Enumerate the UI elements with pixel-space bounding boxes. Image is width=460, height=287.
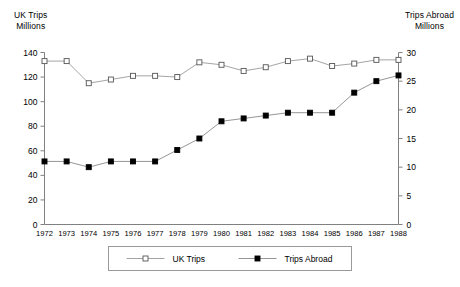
x-axis-tick-label: 1972 — [36, 229, 53, 238]
x-axis-tick-label: 1986 — [346, 229, 363, 238]
x-axis-tick-label: 1975 — [102, 229, 119, 238]
x-axis-tick-label: 1977 — [147, 229, 164, 238]
series-2 — [42, 73, 401, 170]
legend-marker — [255, 256, 260, 261]
series-1 — [42, 56, 401, 86]
data-point-marker — [396, 57, 401, 62]
right-axis-tick-label: 15 — [407, 134, 417, 144]
x-axis-tick-label: 1980 — [213, 229, 230, 238]
data-point-marker — [175, 147, 180, 152]
series-layer — [42, 56, 401, 170]
chart-container: UK Trips Millions Trips Abroad Millions … — [0, 0, 460, 287]
data-point-marker — [108, 77, 113, 82]
left-axis-tick-label: 120 — [23, 72, 37, 82]
data-point-marker — [285, 110, 290, 115]
right-axis-tick-label: 20 — [407, 105, 417, 115]
right-axis-tick-label: 30 — [407, 48, 417, 58]
right-axis-tick-label: 25 — [407, 76, 417, 86]
data-point-marker — [352, 90, 357, 95]
x-axis-tick-label: 1988 — [390, 229, 407, 238]
x-axis-tick-label: 1984 — [302, 229, 319, 238]
data-point-marker — [108, 159, 113, 164]
x-axis-tick-label: 1978 — [169, 229, 186, 238]
data-point-marker — [64, 59, 69, 64]
data-point-marker — [330, 110, 335, 115]
data-point-marker — [241, 116, 246, 121]
x-axis-tick-label: 1976 — [125, 229, 142, 238]
x-axis: 1972197319741975197619771978197919801981… — [36, 225, 407, 239]
left-axis-tick-label: 40 — [28, 170, 38, 180]
data-point-marker — [42, 159, 47, 164]
data-point-marker — [374, 57, 379, 62]
left-axis-tick-label: 140 — [23, 48, 37, 58]
data-point-marker — [197, 60, 202, 65]
data-point-marker — [42, 59, 47, 64]
x-axis-tick-label: 1973 — [58, 229, 75, 238]
data-point-marker — [396, 73, 401, 78]
data-point-marker — [86, 165, 91, 170]
data-point-marker — [131, 73, 136, 78]
chart-legend: UK TripsTrips Abroad — [109, 247, 352, 271]
data-point-marker — [131, 159, 136, 164]
data-point-marker — [153, 73, 158, 78]
data-point-marker — [330, 64, 335, 69]
data-point-marker — [153, 159, 158, 164]
legend-label: UK Trips — [173, 254, 206, 264]
data-point-marker — [64, 159, 69, 164]
data-point-marker — [175, 75, 180, 80]
data-point-marker — [263, 113, 268, 118]
x-axis-tick-label: 1985 — [324, 229, 341, 238]
data-point-marker — [374, 79, 379, 84]
data-point-marker — [352, 61, 357, 66]
data-point-marker — [219, 119, 224, 124]
left-axis-tick-label: 60 — [28, 146, 38, 156]
left-axis-tick-label: 100 — [23, 97, 37, 107]
data-point-marker — [219, 62, 224, 67]
x-axis-tick-label: 1979 — [191, 229, 208, 238]
data-point-marker — [285, 59, 290, 64]
data-point-marker — [241, 68, 246, 73]
left-axis-tick-label: 20 — [28, 195, 38, 205]
x-axis-tick-label: 1974 — [80, 229, 97, 238]
data-point-marker — [308, 110, 313, 115]
x-axis-tick-label: 1987 — [368, 229, 385, 238]
legend-label: Trips Abroad — [285, 254, 333, 264]
left-axis-tick-label: 80 — [28, 121, 38, 131]
right-axis-tick-label: 10 — [407, 162, 417, 172]
legend-marker — [143, 256, 148, 261]
right-axis-tick-label: 5 — [407, 191, 412, 201]
data-point-marker — [308, 56, 313, 61]
data-point-marker — [197, 136, 202, 141]
right-axis-tick-label: 0 — [407, 220, 412, 230]
data-point-marker — [263, 65, 268, 70]
x-axis-tick-label: 1982 — [257, 229, 274, 238]
left-axis: 020406080100120140 — [23, 48, 44, 230]
plot-area: 020406080100120140 051015202530 19721973… — [0, 0, 460, 287]
data-point-marker — [86, 81, 91, 86]
x-axis-tick-label: 1983 — [279, 229, 296, 238]
x-axis-tick-label: 1981 — [235, 229, 252, 238]
left-axis-tick-label: 0 — [33, 220, 38, 230]
